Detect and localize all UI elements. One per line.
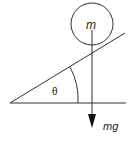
angle-arc — [70, 67, 78, 103]
mass-label: m — [86, 18, 96, 32]
incline-line — [10, 33, 125, 103]
incline-diagram: m θ mg — [0, 0, 134, 145]
force-label: mg — [103, 120, 119, 132]
angle-label: θ — [52, 86, 58, 97]
arrow-head-icon — [88, 114, 96, 128]
